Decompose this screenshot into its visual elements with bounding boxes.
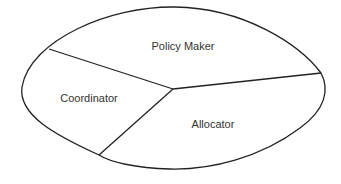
region-label-policy-maker: Policy Maker bbox=[152, 40, 215, 52]
role-partition-diagram: Policy Maker Coordinator Allocator bbox=[0, 0, 341, 184]
region-label-coordinator: Coordinator bbox=[60, 92, 118, 104]
diagram-canvas: Policy Maker Coordinator Allocator bbox=[0, 0, 341, 184]
outer-boundary bbox=[22, 7, 325, 169]
divider-right bbox=[173, 73, 321, 89]
divider-upper-left bbox=[49, 49, 173, 89]
region-label-allocator: Allocator bbox=[192, 118, 235, 130]
